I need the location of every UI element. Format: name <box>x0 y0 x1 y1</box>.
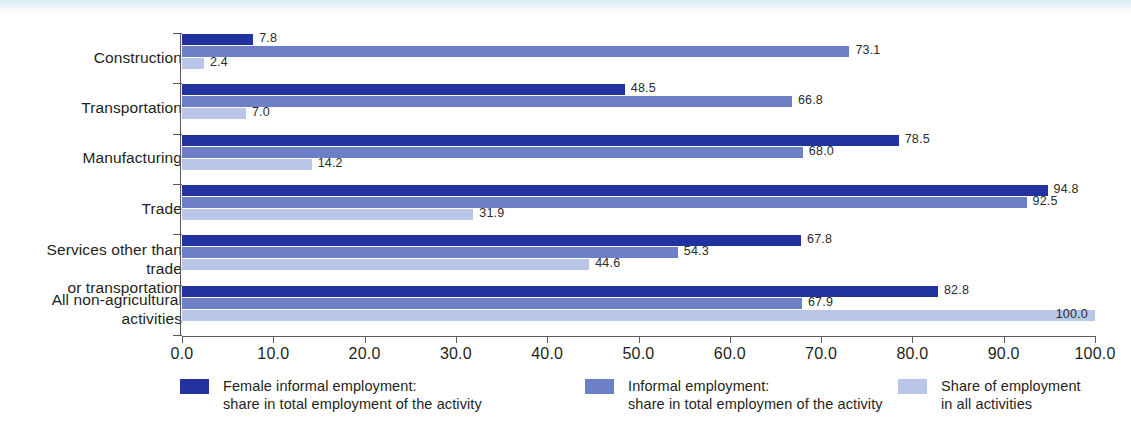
bar <box>182 310 1095 321</box>
plot-area: 7.873.12.448.566.87.078.568.014.294.892.… <box>182 33 1095 335</box>
legend-item: Share of employment in all activities <box>898 377 1081 413</box>
legend-swatch-icon <box>585 379 614 394</box>
category-label-line: Construction <box>10 48 182 67</box>
category-label-line: Manufacturing <box>10 148 182 167</box>
bar-value-label: 68.0 <box>803 146 834 157</box>
bar-value-label: 100.0 <box>1056 309 1095 320</box>
value-axis-tick <box>182 336 183 343</box>
legend-item: Female informal employment: share in tot… <box>180 377 482 413</box>
value-axis-tick-label: 80.0 <box>896 345 928 363</box>
bar <box>182 135 899 146</box>
bar-value-label: 31.9 <box>473 208 504 219</box>
value-axis-tick <box>821 336 822 343</box>
scan-artifact-band-top <box>0 0 1131 6</box>
bar-value-label: 7.0 <box>246 107 270 118</box>
bar-value-label: 67.8 <box>801 234 832 245</box>
chart-legend: Female informal employment: share in tot… <box>0 377 1131 423</box>
category-label: Trade <box>10 199 182 218</box>
value-axis-tick <box>912 336 913 343</box>
value-axis-tick-label: 90.0 <box>988 345 1020 363</box>
category-label: Services other than tradeor transportati… <box>10 240 182 297</box>
value-axis-tick-label: 60.0 <box>714 345 746 363</box>
value-axis-tick <box>456 336 457 343</box>
value-axis-tick <box>1004 336 1005 343</box>
bar <box>182 34 253 45</box>
value-axis-tick-label: 30.0 <box>440 345 472 363</box>
bar <box>182 46 849 57</box>
bar-value-label: 92.5 <box>1027 196 1058 207</box>
bar-group: 67.854.344.6 <box>182 234 1095 284</box>
bar <box>182 84 625 95</box>
bar-value-label: 66.8 <box>792 95 823 106</box>
category-label: Transportation <box>10 98 182 117</box>
legend-label: Share of employment in all activities <box>941 377 1081 413</box>
legend-item: Informal employment: share in total empl… <box>585 377 883 413</box>
category-label-line: Transportation <box>10 98 182 117</box>
category-label: Manufacturing <box>10 148 182 167</box>
value-axis-tick <box>1095 336 1096 343</box>
value-axis-tick-label: 20.0 <box>349 345 381 363</box>
value-axis-tick-label: 40.0 <box>531 345 563 363</box>
value-axis-tick-label: 10.0 <box>257 345 289 363</box>
category-label-line: Trade <box>10 199 182 218</box>
category-label-line: Services other than trade <box>10 240 182 278</box>
legend-swatch-icon <box>898 379 927 394</box>
bar-group: 94.892.531.9 <box>182 184 1095 234</box>
bar <box>182 185 1048 196</box>
bar-value-label: 48.5 <box>625 83 656 94</box>
bar-value-label: 14.2 <box>312 158 343 169</box>
category-label-line: activities <box>10 309 182 328</box>
bar <box>182 96 792 107</box>
value-axis-tick <box>639 336 640 343</box>
bar <box>182 58 204 69</box>
bar <box>182 298 802 309</box>
value-axis-tick-label: 70.0 <box>805 345 837 363</box>
bar <box>182 108 246 119</box>
category-axis-line <box>180 33 181 336</box>
category-label-line: All non-agricultural <box>10 290 182 309</box>
legend-swatch-icon <box>180 379 209 394</box>
bar-value-label: 78.5 <box>899 134 930 145</box>
bar-value-label: 67.9 <box>802 297 833 308</box>
bar-value-label: 44.6 <box>589 258 620 269</box>
value-axis-tick <box>273 336 274 343</box>
legend-label: Informal employment: share in total empl… <box>628 377 883 413</box>
bar-value-label: 54.3 <box>678 246 709 257</box>
bar-value-label: 73.1 <box>849 45 880 56</box>
category-axis: ConstructionTransportationManufacturingT… <box>0 33 182 335</box>
bar <box>182 159 312 170</box>
bar <box>182 259 589 270</box>
value-axis-tick <box>547 336 548 343</box>
category-label: All non-agriculturalactivities <box>10 290 182 328</box>
bar-group: 7.873.12.4 <box>182 33 1095 83</box>
value-axis-tick <box>730 336 731 343</box>
bar <box>182 147 803 158</box>
bar <box>182 197 1027 208</box>
category-label: Construction <box>10 48 182 67</box>
value-axis-tick-label: 0.0 <box>171 345 194 363</box>
legend-label: Female informal employment: share in tot… <box>223 377 482 413</box>
bar-group: 82.867.9100.0 <box>182 285 1095 335</box>
bar-value-label: 7.8 <box>253 33 277 44</box>
value-axis-tick-label: 50.0 <box>623 345 655 363</box>
bar-group: 78.568.014.2 <box>182 134 1095 184</box>
bar-group: 48.566.87.0 <box>182 83 1095 133</box>
bar-value-label: 2.4 <box>204 57 228 68</box>
bar-value-label: 82.8 <box>938 285 969 296</box>
chart-figure: ConstructionTransportationManufacturingT… <box>0 0 1131 423</box>
value-axis-tick-label: 100.0 <box>1074 345 1115 363</box>
value-axis-tick <box>365 336 366 343</box>
bar <box>182 209 473 220</box>
